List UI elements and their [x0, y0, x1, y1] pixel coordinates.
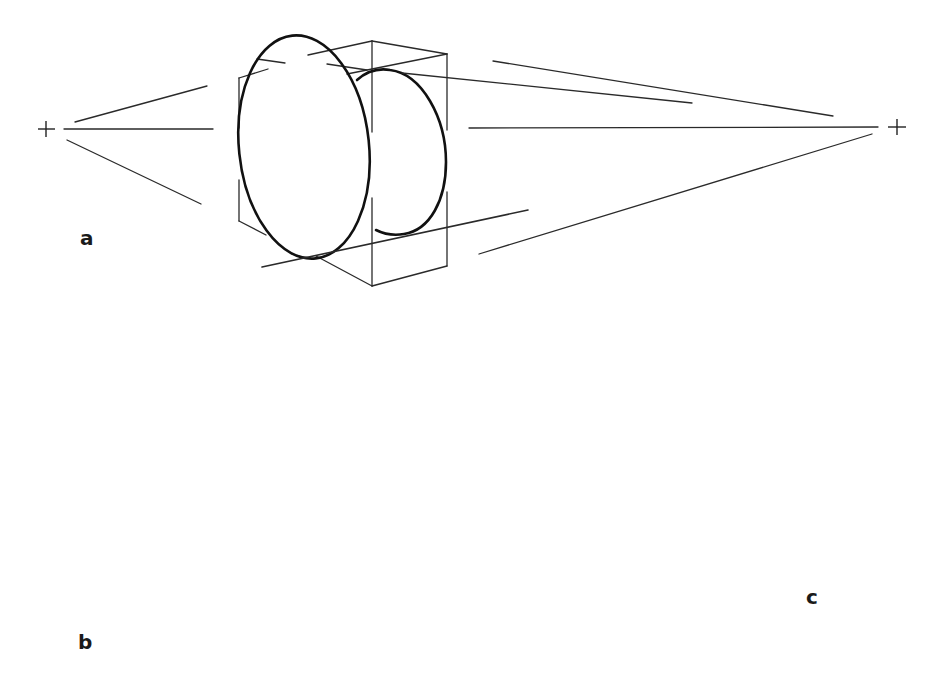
- panel-label-b: b: [78, 632, 92, 652]
- tangent-line: [262, 210, 528, 267]
- figure-a: [38, 29, 906, 286]
- right-vanishing-point-icon: [888, 119, 906, 135]
- left-construction-lines: [64, 86, 213, 204]
- panel-label-c: c: [806, 587, 818, 607]
- panel-label-a: a: [80, 228, 94, 248]
- right-construction-lines: [402, 61, 878, 254]
- diagram-canvas: [0, 0, 945, 680]
- front-ellipse: [228, 29, 381, 265]
- left-vanishing-point-icon: [38, 121, 55, 137]
